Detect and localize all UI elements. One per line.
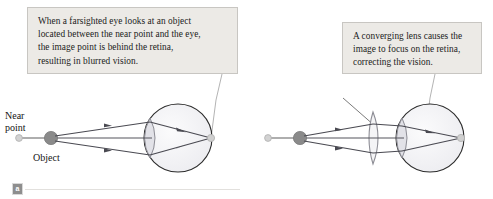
callout-leader-line	[211, 74, 222, 138]
ray-lower-between-lenses	[373, 151, 402, 153]
near-point-label-line-2: point	[5, 122, 26, 134]
object-label: Object	[33, 152, 60, 164]
callout-b-line-1: A converging lens causes the	[353, 30, 472, 43]
callout-b-line-3: correcting the vision.	[353, 56, 472, 69]
panel-a-rule	[25, 189, 240, 190]
near-point-label: Near point	[5, 110, 26, 135]
near-point-label-line-1: Near	[5, 110, 26, 122]
object-dot	[44, 131, 57, 144]
callout-a-line-4: resulting in blurred vision.	[38, 55, 228, 68]
panel-a: When a farsighted eye looks at an object…	[0, 0, 246, 199]
callout-b: A converging lens causes the image to fo…	[342, 22, 482, 74]
near-point-dot	[16, 135, 23, 142]
retina-focus-dot	[457, 134, 464, 141]
callout-a-line-2: located between the near point and the e…	[38, 28, 228, 41]
callout-a: When a farsighted eye looks at an object…	[27, 7, 238, 74]
callout-b-line-2: image to focus on the retina,	[353, 43, 472, 56]
callout-a-line-3: the image point is behind the retina,	[38, 41, 228, 54]
callout-a-line-1: When a farsighted eye looks at an object	[38, 15, 228, 28]
ray-upper-incident	[55, 122, 150, 136]
near-point-dot	[265, 135, 272, 142]
optics-figure: When a farsighted eye looks at an object…	[0, 0, 493, 199]
ray-lower-incident	[304, 141, 373, 153]
image-point-dot	[207, 134, 214, 141]
object-dot	[293, 131, 306, 144]
ray-upper-arrowhead	[104, 124, 112, 128]
ray-lower-incident	[55, 141, 150, 155]
panel-badge-a: a	[12, 183, 23, 195]
